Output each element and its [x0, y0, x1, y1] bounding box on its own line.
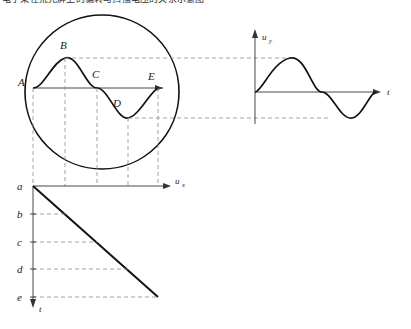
uy-sine-curve [255, 58, 375, 118]
ux-time-axis-label: t [39, 304, 42, 314]
uy-axis-label-subscript: y [268, 37, 272, 44]
ux-tick-label-c: c [17, 236, 22, 248]
ux-tick-label-e: e [17, 291, 22, 303]
figure-caption-text: 电子束在荒光屏上的偏转与扫描电压的关系示意图 [2, 0, 204, 5]
figure-caption-strip: 电子束在荒光屏上的偏转与扫描电压的关系示意图 [0, 0, 411, 9]
figure-canvas: A B C D E u y t [0, 0, 411, 329]
crt-screen-circle [25, 15, 179, 169]
ux-ramp-line [33, 186, 158, 297]
ux-tick-label-a: a [17, 180, 23, 192]
ux-axis-label-subscript: x [181, 181, 185, 188]
screen-point-label-D: D [112, 97, 121, 109]
crt-screen-group: A B C D E [17, 15, 330, 186]
ux-graph-tick-guides [33, 214, 158, 297]
oscilloscope-figure: 电子束在荒光屏上的偏转与扫描电压的关系示意图 [0, 0, 411, 329]
uy-time-axis-label: t [387, 87, 390, 97]
ux-graph-vertical-arrowhead [30, 299, 36, 308]
screen-point-label-E: E [147, 70, 155, 82]
ux-graph-horizontal-arrowhead [163, 183, 171, 189]
screen-point-label-C: C [92, 68, 100, 80]
ux-axis-label: u [175, 176, 180, 186]
ux-tick-label-d: d [17, 263, 23, 275]
uy-vs-t-graph: u y t [252, 29, 390, 124]
uy-axis-label: u [262, 32, 267, 42]
screen-point-label-B: B [60, 39, 67, 51]
uy-graph-vertical-arrowhead [252, 29, 258, 38]
screen-point-label-A: A [17, 76, 25, 88]
ux-tick-label-b: b [17, 208, 23, 220]
ux-sawtooth-graph: a b c d e u x t [17, 176, 185, 314]
